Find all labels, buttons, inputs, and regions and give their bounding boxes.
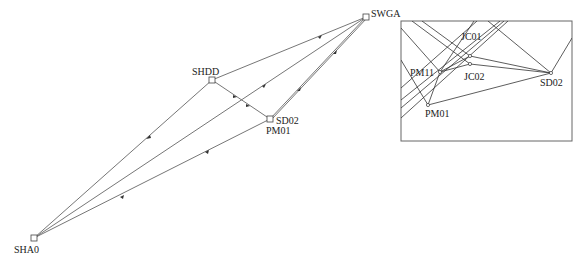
- inset-node-pm01: [426, 103, 429, 106]
- inset-label-sd02: SD02: [540, 77, 563, 88]
- inset-label-pm01: PM01: [425, 108, 449, 119]
- edge-shdd-sd02: [212, 80, 270, 119]
- inset-label-jc01: JC01: [461, 31, 482, 42]
- station-shdd-marker: [209, 77, 215, 83]
- inset-node-jc02: [468, 62, 471, 65]
- station-sd02-marker: [267, 116, 273, 122]
- main-network: [34, 17, 367, 238]
- edge-sha0-swga: [34, 17, 366, 238]
- label-shdd: SHDD: [192, 66, 219, 77]
- arrow-icon: [146, 135, 151, 139]
- station-swga-marker: [363, 14, 369, 20]
- arrow-icon: [120, 195, 124, 199]
- inset-label-jc02: JC02: [464, 71, 485, 82]
- inset-node-pm11: [438, 70, 441, 73]
- inset-node-jc01: [468, 54, 471, 57]
- station-sha0-marker: [31, 235, 37, 241]
- edge-sd02-swga: [270, 17, 366, 119]
- inset-detail: JC01 JC02 PM11 PM01 SD02: [401, 21, 572, 141]
- label-sha0: SHA0: [14, 244, 39, 255]
- edge-sha0-shdd: [34, 80, 212, 238]
- edge-sha0-sd02: [34, 119, 270, 238]
- label-pm01: PM01: [266, 125, 290, 136]
- network-diagram: SHA0 SHDD SD02 PM01 SWGA: [0, 0, 575, 264]
- edge-shdd-swga: [212, 17, 366, 80]
- label-swga: SWGA: [371, 8, 401, 19]
- edge-sd02-swga-2: [272, 18, 367, 119]
- inset-node-sd02: [549, 71, 552, 74]
- direction-arrows: [120, 35, 337, 199]
- inset-label-pm11: PM11: [410, 67, 434, 78]
